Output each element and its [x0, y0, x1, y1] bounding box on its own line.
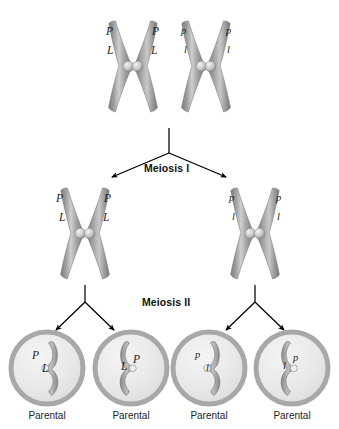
top-left-chromosome-allele-lower-left: L	[107, 45, 113, 57]
top-left-chromosome-allele-upper-left: P	[106, 26, 113, 38]
meiosis-ii-arrows-left	[56, 285, 114, 330]
middle-chromosome-left	[61, 188, 110, 279]
gamete-2-allele-a: L	[121, 361, 127, 373]
top-chromosome-left	[109, 21, 158, 112]
top-right-chromosome-allele-lower-right: l	[227, 45, 230, 56]
meiosis-ii-arrows-right	[226, 285, 284, 330]
top-right-chromosome-allele-lower-left: l	[184, 45, 187, 56]
gamete-2-caption: Parental	[101, 410, 161, 421]
gamete-cell-3	[173, 332, 245, 404]
middle-right-chromosome-allele-upper-right: p	[276, 193, 281, 204]
gamete-1-allele-b: L	[42, 363, 48, 375]
middle-left-chromosome-allele-lower-right: L	[103, 212, 109, 224]
top-chromosome-right	[182, 21, 231, 112]
gamete-3-caption: Parental	[179, 410, 239, 421]
gamete-3-allele-a: p	[195, 350, 200, 361]
gamete-cell-4	[256, 332, 328, 404]
gamete-1-caption: Parental	[17, 410, 77, 421]
middle-left-chromosome-allele-upper-right: P	[104, 193, 111, 205]
gamete-1-allele-a: P	[32, 350, 39, 362]
meiosis-ii-label: Meiosis II	[142, 296, 190, 308]
top-left-chromosome-allele-upper-right: P	[152, 26, 159, 38]
middle-left-chromosome-allele-lower-left: L	[59, 212, 65, 224]
top-right-chromosome-allele-upper-left: p	[181, 26, 186, 37]
top-right-chromosome-allele-upper-right: p	[226, 26, 231, 37]
meiosis-diagram: P P L L p p l l Meiosis I P P L L p p l …	[0, 0, 339, 429]
gamete-2-allele-b: P	[133, 354, 140, 366]
gamete-4-allele-b: p	[293, 353, 298, 364]
middle-chromosome-right	[231, 188, 280, 279]
top-left-chromosome-allele-lower-right: L	[151, 45, 157, 57]
gamete-3-allele-b: l	[206, 363, 209, 374]
gamete-4-allele-a: l	[283, 361, 286, 372]
middle-left-chromosome-allele-upper-left: P	[56, 193, 63, 205]
middle-right-chromosome-allele-lower-left: l	[232, 212, 235, 223]
meiosis-i-label: Meiosis I	[144, 162, 189, 174]
middle-right-chromosome-allele-upper-left: p	[229, 193, 234, 204]
diagram-graphics-layer	[0, 0, 339, 429]
gamete-4-caption: Parental	[262, 410, 322, 421]
middle-right-chromosome-allele-lower-right: l	[277, 212, 280, 223]
gamete-cell-2	[95, 332, 167, 404]
